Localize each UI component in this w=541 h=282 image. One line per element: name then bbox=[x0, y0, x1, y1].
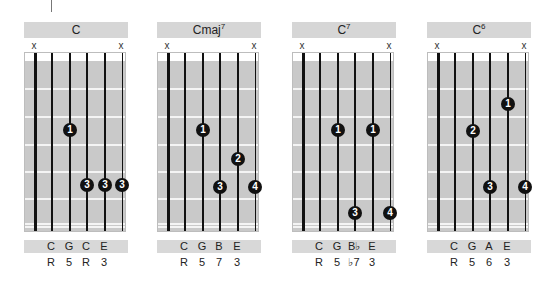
note-name: E bbox=[98, 240, 110, 253]
chord-diagram: Cmaj7xx1234CGBER573 bbox=[157, 0, 261, 282]
fret-line bbox=[25, 226, 125, 228]
scale-degree: R bbox=[313, 256, 325, 268]
scale-degree: R bbox=[45, 256, 57, 268]
note-name: E bbox=[231, 240, 243, 253]
fret-line bbox=[293, 144, 393, 146]
muted-string-marker: x bbox=[29, 40, 39, 51]
scale-degree: R bbox=[80, 256, 92, 268]
finger-dot: 1 bbox=[501, 97, 515, 111]
string-line bbox=[472, 53, 474, 231]
fret-line bbox=[25, 223, 125, 225]
fret-line bbox=[25, 144, 125, 146]
string-line bbox=[219, 53, 221, 231]
string-line bbox=[319, 53, 321, 231]
muted-string-marker: x bbox=[297, 40, 307, 51]
chord-title: Cmaj7 bbox=[157, 22, 261, 38]
finger-dot: 2 bbox=[466, 124, 480, 138]
note-name: G bbox=[63, 240, 75, 253]
string-line bbox=[437, 53, 440, 231]
note-name: A bbox=[483, 240, 495, 253]
scale-degree: R bbox=[448, 256, 460, 268]
finger-dot: 4 bbox=[383, 206, 397, 220]
scale-degrees-row: R573 bbox=[157, 256, 261, 269]
nut bbox=[25, 53, 125, 61]
string-line bbox=[122, 53, 123, 231]
fret-line bbox=[158, 223, 258, 225]
finger-dot: 3 bbox=[348, 206, 362, 220]
scale-degree: 6 bbox=[483, 256, 495, 268]
fret-line bbox=[293, 198, 393, 200]
finger-dot: 1 bbox=[366, 123, 380, 137]
fretboard-grid: 1234 bbox=[427, 52, 529, 232]
fret-line bbox=[158, 116, 258, 118]
scale-degree: R bbox=[178, 256, 190, 268]
note-name: C bbox=[178, 240, 190, 253]
note-name: G bbox=[196, 240, 208, 253]
finger-dot: 1 bbox=[196, 123, 210, 137]
string-line bbox=[525, 53, 526, 231]
scale-degrees-row: R5R3 bbox=[24, 256, 128, 269]
finger-dot: 1 bbox=[63, 123, 77, 137]
fret-line bbox=[428, 171, 528, 173]
scale-degree: 5 bbox=[466, 256, 478, 268]
fret-line bbox=[158, 144, 258, 146]
fret-line bbox=[428, 226, 528, 228]
finger-dot: 2 bbox=[231, 152, 245, 166]
fret-line bbox=[293, 116, 393, 118]
fret-line bbox=[158, 198, 258, 200]
string-line bbox=[237, 53, 239, 231]
fret-line bbox=[158, 226, 258, 228]
chord-diagram: Cxx1333CGCER5R3 bbox=[24, 0, 128, 282]
note-name: C bbox=[45, 240, 57, 253]
scale-degree: 3 bbox=[501, 256, 513, 268]
scale-degree: 5 bbox=[331, 256, 343, 268]
note-names-row: CGCE bbox=[24, 240, 128, 253]
scale-degrees-row: R5♭73 bbox=[292, 256, 396, 269]
string-line bbox=[302, 53, 305, 231]
note-name: B♭ bbox=[348, 240, 360, 253]
chord-diagram: C7xx1134CGB♭ER5♭73 bbox=[292, 0, 396, 282]
fretboard-grid: 1234 bbox=[157, 52, 259, 232]
muted-string-marker: x bbox=[162, 40, 172, 51]
note-name: G bbox=[331, 240, 343, 253]
muted-string-marker: x bbox=[116, 40, 126, 51]
finger-dot: 3 bbox=[80, 178, 94, 192]
fret-line bbox=[428, 88, 528, 90]
fret-line bbox=[25, 88, 125, 90]
string-line bbox=[104, 53, 106, 231]
chord-title: C bbox=[24, 22, 128, 38]
string-line bbox=[69, 53, 71, 231]
finger-dot: 3 bbox=[213, 180, 227, 194]
string-line bbox=[337, 53, 339, 231]
string-line bbox=[454, 53, 456, 231]
string-line bbox=[51, 53, 53, 231]
nut bbox=[158, 53, 258, 61]
chord-title: C7 bbox=[292, 22, 396, 38]
scale-degree: 3 bbox=[366, 256, 378, 268]
fret-line bbox=[428, 116, 528, 118]
note-name: C bbox=[448, 240, 460, 253]
note-names-row: CGB♭E bbox=[292, 240, 396, 253]
finger-dot: 3 bbox=[115, 178, 129, 192]
string-line bbox=[489, 53, 491, 231]
fret-line bbox=[428, 198, 528, 200]
string-line bbox=[255, 53, 256, 231]
muted-string-marker: x bbox=[384, 40, 394, 51]
scale-degree: 7 bbox=[213, 256, 225, 268]
fret-line bbox=[293, 88, 393, 90]
string-line bbox=[167, 53, 170, 231]
fret-line bbox=[25, 116, 125, 118]
fretboard-grid: 1333 bbox=[24, 52, 126, 232]
note-name: C bbox=[80, 240, 92, 253]
muted-string-marker: x bbox=[519, 40, 529, 51]
scale-degree: 3 bbox=[231, 256, 243, 268]
finger-dot: 3 bbox=[98, 178, 112, 192]
finger-dot: 3 bbox=[483, 180, 497, 194]
string-line bbox=[354, 53, 356, 231]
nut bbox=[293, 53, 393, 61]
string-line bbox=[390, 53, 391, 231]
note-name: E bbox=[366, 240, 378, 253]
chord-title: C6 bbox=[427, 22, 531, 38]
note-name: B bbox=[213, 240, 225, 253]
string-line bbox=[507, 53, 509, 231]
